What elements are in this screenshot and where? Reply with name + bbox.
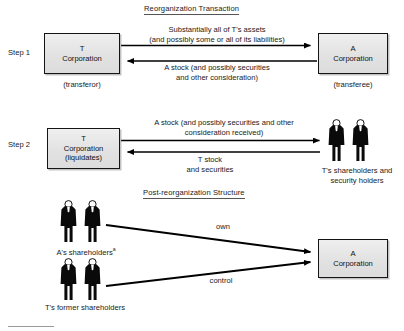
box-t-corporation-step1-line2: Corporation [62,54,102,63]
caption-t-shareholders-line1: T's shareholders and [312,166,402,176]
caption-a-shareholders: A's shareholdersa [38,245,134,257]
box-a-corporation-post-reorg-line1: A [350,249,355,258]
label-step1-assets-arrow: Substantially all of T's assets (and pos… [128,25,306,44]
label-step1-astock-line2: and other consideration) [128,73,306,83]
box-a-corporation-post-reorg-line2: Corporation [333,259,373,268]
box-t-corporation-step1[interactable]: T Corporation [44,33,120,74]
label-step2-astock-line1: A stock (and possibly securities and oth… [128,118,320,128]
box-a-corporation-step1-line2: Corporation [333,54,373,63]
label-step2-tstock-line2: and securities [150,165,270,175]
caption-a-shareholders-text: A's shareholders [56,248,112,257]
box-t-corporation-step2[interactable]: T Corporation (liquidates) [47,128,120,169]
label-control-arrow: control [198,276,244,286]
person-silhouette-icon [61,259,77,300]
person-silhouette-icon [329,120,345,161]
box-t-corporation-step2-line1: T [81,134,86,143]
label-step2-astock-line2: consideration received) [128,128,320,138]
box-t-corporation-step1-line1: T [80,44,85,53]
label-step2-tstock-arrow: T stock and securities [150,155,270,174]
caption-transferee: (transferee) [322,80,384,89]
section-title-post-reorganization: Post-reorganization Structure [143,188,245,199]
caption-t-former-shareholders: T's former shareholders [22,303,148,313]
label-step1-astock-line1: A stock (and possibly securities [128,63,306,73]
label-step1-astock-arrow: A stock (and possibly securities and oth… [128,63,306,82]
label-step1-assets-line1: Substantially all of T's assets [128,25,306,35]
box-t-corporation-step2-line2: Corporation [64,144,104,153]
box-t-corporation-step2-line3: (liquidates) [65,153,102,162]
label-step1-assets-line2: (and possibly some or all of its liabili… [128,35,306,45]
diagram-canvas: Reorganization Transaction Post-reorgani… [0,0,404,331]
people-group-a-shareholders [58,200,110,246]
box-a-corporation-post-reorg[interactable]: A Corporation [318,239,388,278]
caption-transferor: (transferor) [51,80,113,89]
person-silhouette-icon [61,201,77,242]
step-1-label: Step 1 [8,48,30,57]
label-own-arrow: own [203,222,243,232]
person-silhouette-icon [353,120,369,161]
footnote-separator-rule [8,326,54,327]
box-a-corporation-step1[interactable]: A Corporation [318,33,388,74]
section-title-reorganization: Reorganization Transaction [144,4,239,15]
box-a-corporation-step1-line1: A [350,44,355,53]
label-step2-tstock-line1: T stock [150,155,270,165]
person-silhouette-icon [85,201,101,242]
caption-t-shareholders-line2: security holders [312,176,402,186]
caption-t-shareholders: T's shareholders and security holders [312,166,402,185]
step-2-label: Step 2 [8,140,30,149]
people-group-t-former-shareholders [58,258,110,304]
person-silhouette-icon [85,259,101,300]
caption-a-shareholders-footnote-marker: a [113,246,116,252]
people-group-t-shareholders [326,119,378,165]
label-step2-astock-arrow: A stock (and possibly securities and oth… [128,118,320,137]
